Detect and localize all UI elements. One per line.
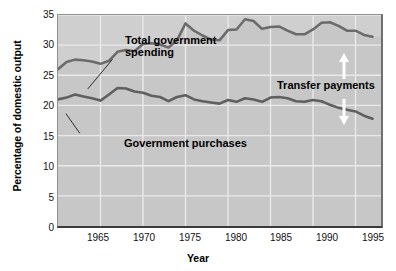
- x-tick-label: 1990: [305, 232, 349, 243]
- annotation-line-2: spending: [125, 46, 174, 58]
- x-tick-label: 1980: [214, 232, 258, 243]
- plot-canvas: [58, 15, 381, 226]
- annotation-total-government-spending: Total governmentspending: [125, 34, 216, 58]
- y-axis-title: Percentage of domestic output: [11, 1, 23, 231]
- y-tick-label: 20: [28, 101, 54, 111]
- y-tick-label: 15: [28, 132, 54, 142]
- x-tick-label: 1965: [76, 232, 120, 243]
- x-tick-label: 1985: [259, 232, 303, 243]
- y-tick-label: 10: [28, 162, 54, 172]
- transfer-payments-double-arrow-icon: [339, 53, 349, 125]
- y-tick-label: 5: [28, 193, 54, 203]
- chart-figure: Percentage of domestic output 35 30 25 2…: [0, 0, 396, 271]
- y-axis-tick-labels: 35 30 25 20 15 10 5 0: [26, 0, 54, 271]
- x-axis-title: Year: [0, 252, 396, 264]
- y-tick-label: 35: [28, 10, 54, 20]
- x-tick-label: 1995: [351, 232, 395, 243]
- annotation-transfer-payments: Transfer payments: [277, 79, 375, 91]
- plot-area: Total governmentspending Government purc…: [57, 14, 383, 228]
- y-tick-label: 25: [28, 71, 54, 81]
- x-tick-label: 1970: [122, 232, 166, 243]
- y-tick-label: 30: [28, 40, 54, 50]
- annotation-line-1: Total government: [125, 34, 216, 46]
- annotation-government-purchases: Government purchases: [124, 137, 247, 149]
- y-tick-label: 0: [28, 223, 54, 233]
- x-tick-label: 1975: [168, 232, 212, 243]
